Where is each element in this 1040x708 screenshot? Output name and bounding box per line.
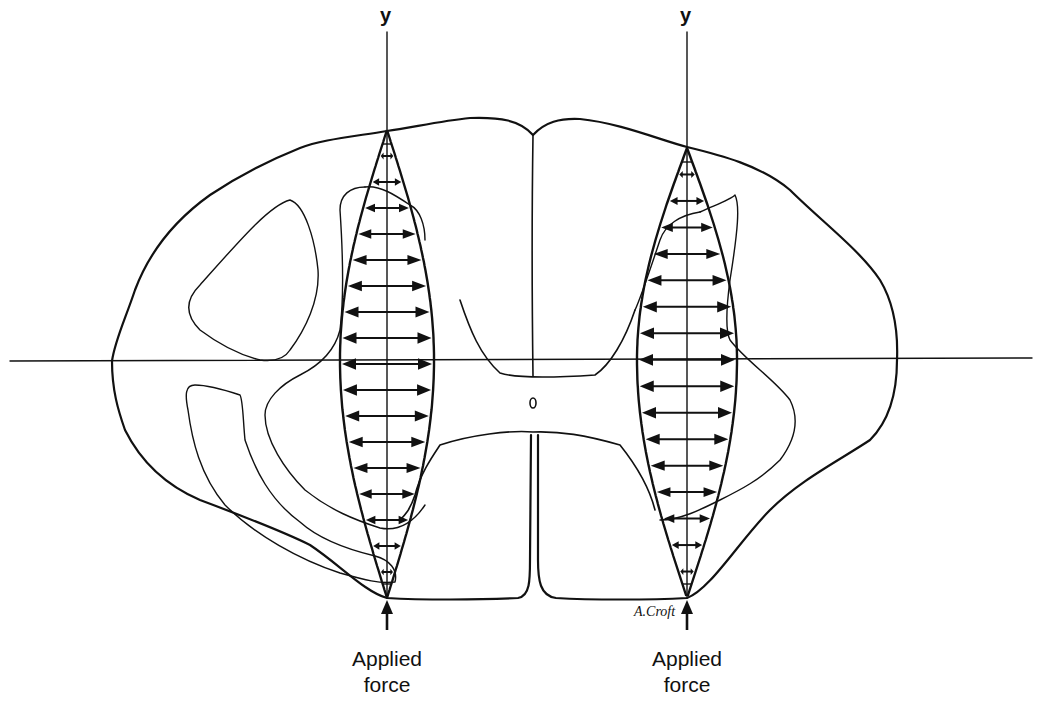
arrowhead-right-icon bbox=[395, 178, 401, 186]
arrowhead-left-icon bbox=[642, 407, 656, 418]
arrowhead-left-icon bbox=[353, 255, 367, 265]
arrowhead-right-icon bbox=[714, 434, 728, 445]
arrowhead-right-icon bbox=[695, 541, 702, 549]
arrowhead-left-icon bbox=[643, 301, 657, 312]
arrowhead-right-icon bbox=[390, 153, 393, 160]
arrowhead-right-icon bbox=[395, 542, 401, 550]
arrowhead-left-icon bbox=[373, 178, 379, 186]
arrowhead-right-icon bbox=[411, 437, 425, 448]
arrowhead-left-icon bbox=[345, 306, 359, 317]
spinal-cord-diagram bbox=[0, 0, 1040, 708]
arrowhead-left-icon bbox=[348, 281, 362, 292]
arrowhead-left-icon bbox=[358, 229, 371, 238]
arrowhead-left-icon bbox=[670, 197, 678, 205]
left-y-axis-label: y bbox=[380, 4, 391, 27]
arrowhead-left-icon bbox=[343, 384, 357, 395]
arrowhead-right-icon bbox=[417, 384, 431, 395]
arrowhead-left-icon bbox=[343, 332, 357, 343]
arrowhead-right-icon bbox=[713, 275, 727, 286]
arrowhead-right-icon bbox=[415, 410, 429, 421]
arrowhead-right-icon bbox=[721, 354, 735, 366]
arrowhead-right-icon bbox=[415, 306, 429, 317]
arrowhead-right-icon bbox=[717, 301, 731, 312]
arrowhead-right-icon bbox=[407, 463, 421, 473]
arrowhead-left-icon bbox=[654, 249, 668, 259]
arrowhead-right-icon bbox=[718, 407, 732, 418]
arrowhead-right-icon bbox=[720, 380, 734, 392]
arrowhead-right-icon bbox=[696, 197, 704, 205]
right-y-axis-label: y bbox=[680, 4, 691, 27]
right-applied-force-label: Applied force bbox=[627, 646, 747, 698]
arrowhead-right-icon bbox=[390, 569, 393, 576]
arrowhead-left-icon bbox=[639, 354, 653, 366]
left-force-line1: Applied bbox=[327, 646, 447, 672]
arrowhead-left-icon bbox=[664, 514, 674, 523]
arrowhead-right-icon bbox=[700, 514, 710, 523]
arrowhead-left-icon bbox=[679, 171, 682, 178]
arrowhead-left-icon bbox=[353, 463, 367, 473]
central-canal bbox=[530, 398, 536, 408]
arrowhead-left-icon bbox=[381, 569, 384, 576]
left-grey-horn-outline bbox=[265, 187, 425, 529]
arrowhead-left-icon bbox=[661, 223, 673, 232]
arrowhead-right-icon bbox=[691, 568, 694, 575]
arrowhead-right-icon bbox=[704, 487, 718, 497]
arrowhead-right-icon bbox=[407, 255, 421, 265]
arrowhead-right-icon bbox=[691, 171, 694, 178]
right-force-line1: Applied bbox=[627, 646, 747, 672]
artist-signature: A.Croft bbox=[634, 604, 675, 620]
right-lens-right-edge bbox=[687, 148, 737, 596]
right-applied-force-arrow bbox=[681, 600, 693, 630]
arrowhead-left-icon bbox=[349, 437, 363, 448]
left-dorsal-column-region bbox=[189, 200, 318, 361]
arrowhead-right-icon bbox=[402, 489, 415, 498]
arrowhead-left-icon bbox=[381, 153, 384, 160]
arrowhead-left-icon bbox=[373, 542, 379, 550]
arrowhead-left-icon bbox=[646, 434, 660, 445]
horizontal-axis bbox=[10, 358, 1032, 361]
arrowhead-left-icon bbox=[657, 487, 671, 497]
arrowhead-left-icon bbox=[640, 380, 654, 392]
arrowhead-left-icon bbox=[359, 489, 372, 498]
arrowhead-left-icon bbox=[680, 568, 683, 575]
arrowhead-left-icon bbox=[345, 410, 359, 421]
right-force-line2: force bbox=[627, 672, 747, 698]
arrowhead-right-icon bbox=[412, 281, 426, 292]
arrowhead-left-icon bbox=[640, 327, 654, 339]
arrowhead-right-icon bbox=[403, 229, 416, 238]
right-lens-left-edge bbox=[637, 148, 687, 596]
arrowhead-left-icon bbox=[365, 204, 375, 213]
posterior-fissure bbox=[532, 135, 533, 376]
left-applied-force-label: Applied force bbox=[327, 646, 447, 698]
arrowhead-right-icon bbox=[417, 332, 431, 343]
arrowhead-left-icon bbox=[672, 541, 679, 549]
arrowhead-left-icon bbox=[651, 460, 665, 470]
left-applied-force-arrow bbox=[381, 600, 393, 630]
left-force-line2: force bbox=[327, 672, 447, 698]
arrowhead-right-icon bbox=[709, 460, 723, 470]
grey-matter-outline bbox=[400, 300, 655, 520]
arrowhead-right-icon bbox=[701, 223, 713, 232]
arrowhead-right-icon bbox=[706, 249, 720, 259]
arrowhead-left-icon bbox=[647, 275, 661, 286]
arrowhead-right-icon bbox=[399, 204, 409, 213]
left-anterior-region bbox=[186, 385, 395, 583]
